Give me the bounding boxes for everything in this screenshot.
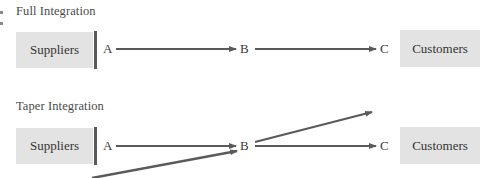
- arrow-b-to-external: [255, 112, 372, 142]
- arrows-layer: [0, 0, 489, 178]
- arrow-external-to-b: [92, 151, 237, 178]
